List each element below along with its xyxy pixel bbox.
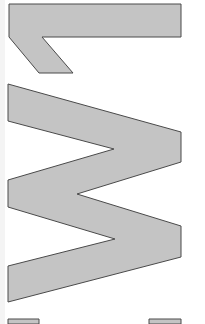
bottom-right-block — [149, 319, 181, 324]
glyph-w-shape — [8, 84, 181, 302]
glyph-l-shape — [9, 4, 181, 73]
glyph-canvas — [0, 0, 205, 324]
bottom-left-block — [8, 319, 39, 324]
